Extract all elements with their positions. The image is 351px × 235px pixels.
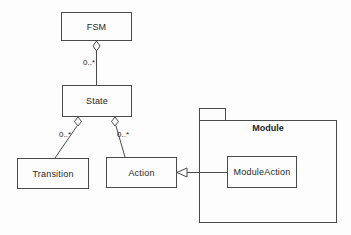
class-label-action: Action	[128, 168, 154, 178]
package-module-label: Module	[200, 123, 336, 133]
multiplicity-state-action: 0..*	[117, 130, 129, 139]
aggregation-diamond-fsm-state	[93, 41, 100, 51]
class-label-fsm: FSM	[87, 22, 107, 32]
class-box-transition: Transition	[17, 158, 89, 189]
class-label-transition: Transition	[32, 169, 73, 179]
multiplicity-fsm-state: 0..*	[83, 58, 95, 67]
connector-state-transition	[55, 126, 77, 158]
class-box-moduleaction: ModuleAction	[227, 156, 297, 188]
class-box-fsm: FSM	[61, 12, 132, 41]
class-box-state: State	[62, 85, 132, 117]
aggregation-diamond-state-action	[112, 117, 119, 126]
generalization-arrowhead	[177, 168, 187, 177]
multiplicity-state-transition: 0..*	[59, 130, 71, 139]
class-box-action: Action	[106, 157, 177, 188]
uml-class-diagram: Module FSM State Transition Action Modul…	[0, 0, 351, 235]
connector-state-action	[116, 126, 125, 157]
aggregation-diamond-state-transition	[75, 117, 82, 126]
class-label-moduleaction: ModuleAction	[234, 167, 291, 177]
class-label-state: State	[86, 96, 108, 106]
